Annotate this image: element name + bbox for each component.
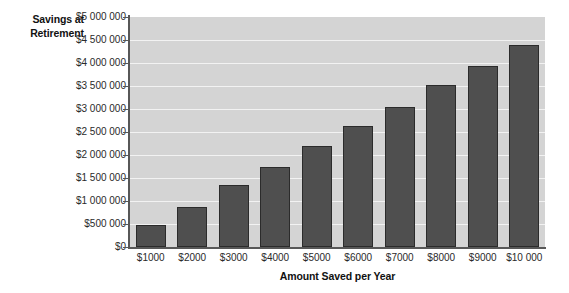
x-axis-tick-label: $4000 bbox=[255, 252, 297, 264]
x-axis-tick-label: $9000 bbox=[462, 252, 504, 264]
y-axis-tick-label: $1 500 000 bbox=[60, 173, 126, 183]
y-axis-tick-label: $4 500 000 bbox=[60, 35, 126, 45]
y-axis-tick-label: $4 000 000 bbox=[60, 58, 126, 68]
bar bbox=[509, 45, 539, 247]
y-axis-tick bbox=[123, 247, 129, 248]
y-axis-tick bbox=[123, 86, 129, 87]
bar bbox=[385, 107, 415, 247]
y-axis-tick bbox=[123, 201, 129, 202]
y-axis-tick bbox=[123, 40, 129, 41]
y-axis-tick-label: $2 500 000 bbox=[60, 127, 126, 137]
y-axis-tick-label: $500 000 bbox=[60, 219, 126, 229]
y-axis-tick bbox=[123, 17, 129, 18]
y-axis-tick-label: $3 500 000 bbox=[60, 81, 126, 91]
x-axis-tick-label: $1000 bbox=[130, 252, 172, 264]
bar bbox=[302, 146, 332, 247]
y-axis-tick bbox=[123, 224, 129, 225]
x-axis-tick-label: $7000 bbox=[379, 252, 421, 264]
y-axis-tick bbox=[123, 63, 129, 64]
bar bbox=[136, 225, 166, 247]
x-axis-tick-label: $2000 bbox=[172, 252, 214, 264]
y-axis-tick bbox=[123, 155, 129, 156]
y-axis-tick-label: $1 000 000 bbox=[60, 196, 126, 206]
y-axis-tick-labels: $0$500 000$1 000 000$1 500 000$2 000 000… bbox=[60, 0, 126, 293]
x-axis-line bbox=[128, 247, 546, 249]
x-axis-tick-label: $5000 bbox=[296, 252, 338, 264]
y-axis-tick bbox=[123, 132, 129, 133]
x-axis-tick-label: $6000 bbox=[338, 252, 380, 264]
bar bbox=[219, 185, 249, 247]
y-axis-tick-label: $5 000 000 bbox=[60, 12, 126, 22]
y-axis-tick bbox=[123, 178, 129, 179]
bar-chart: Savings at Retirement $0$500 000$1 000 0… bbox=[0, 0, 569, 293]
x-axis-title: Amount Saved per Year bbox=[130, 270, 545, 282]
x-axis-tick-label: $10 000 bbox=[504, 252, 546, 264]
bar bbox=[468, 66, 498, 247]
y-axis-tick-label: $0 bbox=[60, 242, 126, 252]
bar bbox=[260, 167, 290, 248]
y-axis-tick-label: $2 000 000 bbox=[60, 150, 126, 160]
x-axis-tick-label: $3000 bbox=[213, 252, 255, 264]
x-axis-tick-labels: $1000$2000$3000$4000$5000$6000$7000$8000… bbox=[130, 252, 545, 266]
y-axis-tick-label: $3 000 000 bbox=[60, 104, 126, 114]
bar bbox=[426, 85, 456, 247]
x-axis-tick-label: $8000 bbox=[421, 252, 463, 264]
bar bbox=[343, 126, 373, 247]
y-axis-tick bbox=[123, 109, 129, 110]
bar bbox=[177, 207, 207, 247]
bar-series bbox=[130, 17, 545, 247]
